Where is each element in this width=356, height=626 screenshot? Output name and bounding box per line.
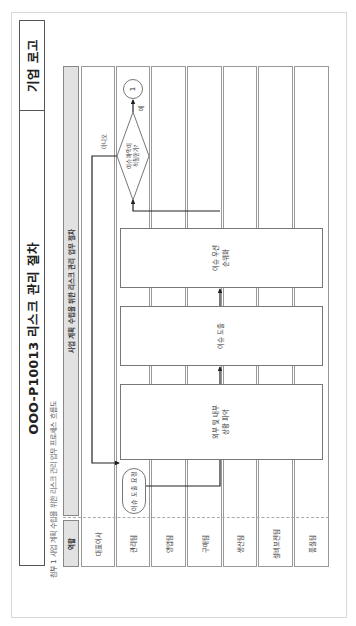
process-step-issue-derivation-text: 이슈 도출	[217, 323, 226, 349]
start-terminator: 이슈 도출 요청	[122, 468, 146, 514]
process-step-issue-prioritization: 이슈 우선 순위화	[120, 228, 323, 288]
branch-label-yes: 예	[137, 106, 145, 111]
lane-label-purchasing: 구매팀	[187, 520, 222, 567]
process-header-bar: 사업 계획 수립을 위한 리스크 관리 업무 절차	[63, 66, 79, 516]
lane-label-production: 생산팀	[223, 520, 257, 567]
company-logo-placeholder: 기업 로고	[19, 20, 45, 110]
decision-text: 이슈 파악이 적절한가?	[126, 143, 140, 170]
attachment-subtitle: 첨부 1 사업 계획 수립을 위한 리스크 관리 업무 프로세스 흐름도	[48, 401, 58, 578]
role-divider-dashed	[63, 517, 329, 518]
lane-label-quality: 품질팀	[294, 520, 329, 567]
lane-label-ceo: 대표이사	[81, 520, 115, 567]
process-step-issue-derivation: 이슈 도출	[120, 306, 323, 366]
decision-issue-adequacy: 이슈 파악이 적절한가?	[123, 116, 143, 196]
lane-label-maintenance: 설비보전팀	[258, 520, 293, 567]
role-column-header: 역할	[63, 520, 79, 567]
offpage-connector-1: 1	[123, 79, 143, 99]
lane-label-management: 관리팀	[116, 520, 150, 567]
branch-label-no: 아니오	[100, 134, 108, 149]
process-step-situation-analysis-text: 외부 및 내부 상황 파악	[212, 405, 230, 439]
document-page: OOO-P10013 리스크 관리 절차 기업 로고 첨부 1 사업 계획 수립…	[0, 0, 356, 626]
process-step-situation-analysis: 외부 및 내부 상황 파악	[120, 384, 323, 460]
start-terminator-text: 이슈 도출 요청	[130, 471, 138, 511]
lane-label-sales: 영업팀	[151, 520, 186, 567]
swimlane-ceo	[81, 66, 115, 567]
document-title: OOO-P10013 리스크 관리 절차	[19, 110, 45, 566]
process-step-issue-prioritization-text: 이슈 우선 순위화	[212, 245, 230, 271]
